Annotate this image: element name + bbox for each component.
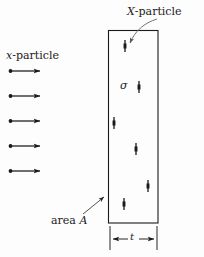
incoming-beam-suffix: -particle bbox=[12, 49, 59, 62]
thickness-label: t bbox=[130, 232, 134, 242]
beam-arrow bbox=[9, 94, 40, 98]
area-leader-line bbox=[83, 197, 104, 214]
target-slab-rect bbox=[109, 31, 159, 224]
figure-canvas bbox=[0, 0, 204, 257]
cross-section-symbol-label: σ bbox=[120, 80, 128, 91]
incoming-beam-arrows bbox=[9, 69, 40, 173]
scattering-cross-section-figure: x-particle X-particle σ area A t bbox=[0, 0, 204, 257]
target-particle-label: X-particle bbox=[127, 6, 182, 17]
target-particle-symbol: X bbox=[127, 5, 135, 18]
target-particle-markers bbox=[114, 40, 148, 210]
area-symbol: A bbox=[79, 214, 87, 227]
area-label-text: area bbox=[51, 214, 79, 227]
incoming-beam-label: x-particle bbox=[6, 50, 59, 61]
beam-arrow bbox=[9, 144, 40, 148]
beam-arrow bbox=[9, 69, 40, 73]
beam-arrow bbox=[9, 169, 40, 173]
area-label: area A bbox=[51, 215, 87, 226]
beam-arrow bbox=[9, 119, 40, 123]
target-particle-suffix: -particle bbox=[135, 5, 182, 18]
